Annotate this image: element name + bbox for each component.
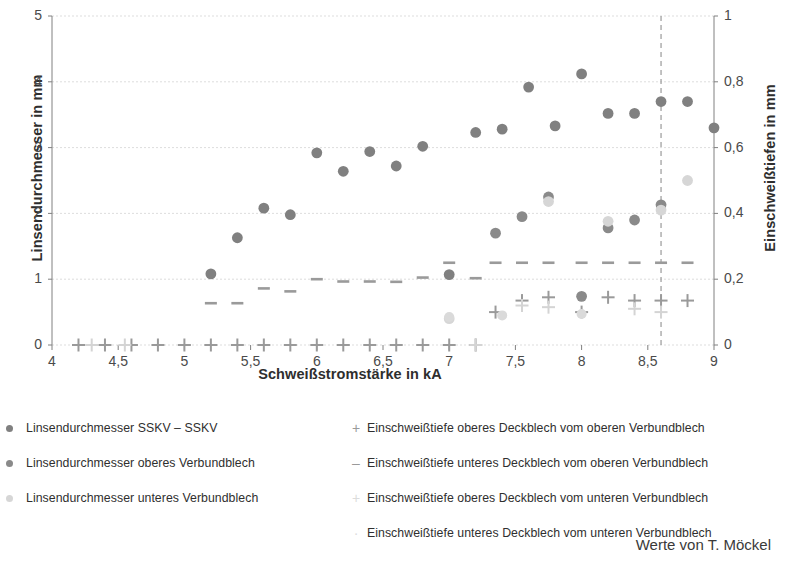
y-tick-label-left: 5 (12, 7, 42, 23)
x-tick-label: 9 (694, 353, 734, 369)
data-point-circle (603, 216, 614, 227)
data-point-circle (550, 120, 561, 131)
data-point-circle (391, 161, 402, 172)
legend-item[interactable]: Linsendurchmesser oberes Verbundblech (4, 453, 354, 473)
x-tick-label: 7 (429, 353, 469, 369)
data-point-dot-light (577, 309, 587, 319)
x-tick-label: 8 (562, 353, 602, 369)
data-point-circle (543, 196, 554, 207)
data-point-circle (311, 147, 322, 158)
data-point-circle (629, 108, 640, 119)
y-tick-label-left: 4 (12, 73, 42, 89)
x-tick-label: 8,5 (628, 353, 668, 369)
credit-text: Werte von T. Möckel (636, 536, 771, 553)
legend-item-label: Einschweißtiefe unteres Deckblech vom ob… (367, 456, 708, 470)
series-5 (85, 299, 667, 351)
x-tick-label: 6 (297, 353, 337, 369)
data-point-circle (656, 205, 667, 216)
y-tick-label-right: 0,8 (724, 73, 764, 89)
data-point-dot-light (497, 310, 507, 320)
x-tick-label: 7,5 (495, 353, 535, 369)
series-3 (72, 291, 694, 352)
plus-icon: · (345, 524, 367, 542)
plus-icon: + (345, 489, 367, 507)
y-tick-label-right: 0,6 (724, 139, 764, 155)
data-point-circle (258, 203, 269, 214)
data-point-circle (232, 232, 243, 243)
series-2 (444, 175, 693, 324)
dash-icon: – (345, 454, 367, 472)
y-tick-label-left: 3 (12, 139, 42, 155)
series-6 (444, 309, 586, 322)
legend-item-label: Einschweißtiefe oberes Deckblech vom unt… (367, 491, 708, 505)
data-point-circle (709, 122, 720, 133)
legend-circle-icon (4, 489, 26, 507)
series-4 (205, 263, 694, 303)
data-point-circle (682, 96, 693, 107)
x-tick-label: 4,5 (98, 353, 138, 369)
plus-icon: + (345, 419, 367, 437)
data-point-circle (444, 269, 455, 280)
figure-container: Linsendurchmesser in mm Einschweißtiefen… (0, 0, 789, 565)
y-tick-label-left: 2 (12, 204, 42, 220)
x-tick-label: 5 (164, 353, 204, 369)
circle-icon (6, 425, 13, 432)
y-tick-label-right: 0,4 (724, 204, 764, 220)
legend-plus-icon: + (345, 489, 367, 507)
circle-icon (6, 495, 13, 502)
series-0 (205, 69, 719, 280)
data-point-circle (629, 215, 640, 226)
legend-item-label: Linsendurchmesser SSKV – SSKV (26, 421, 217, 435)
data-point-circle (497, 124, 508, 135)
data-point-circle (364, 146, 375, 157)
y-tick-label-right: 0,2 (724, 270, 764, 286)
data-point-circle (656, 96, 667, 107)
chart-plot-area: Linsendurchmesser in mm Einschweißtiefen… (0, 0, 789, 400)
x-tick-label: 4 (32, 353, 72, 369)
data-point-circle (470, 127, 481, 138)
data-point-circle (603, 108, 614, 119)
data-point-circle (490, 228, 501, 239)
legend-circle-icon (4, 454, 26, 472)
legend-item[interactable]: +Einschweißtiefe oberes Deckblech vom ob… (345, 418, 789, 438)
circle-icon (6, 460, 13, 467)
data-point-circle (285, 209, 296, 220)
data-point-circle (205, 269, 216, 280)
data-point-circle (523, 82, 534, 93)
legend-item[interactable]: Linsendurchmesser SSKV – SSKV (4, 418, 354, 438)
y-tick-label-left: 0 (12, 336, 42, 352)
data-point-circle (576, 291, 587, 302)
legend-item[interactable]: –Einschweißtiefe unteres Deckblech vom o… (345, 453, 789, 473)
y-axis-right-title: Einschweißtiefen in mm (762, 38, 778, 298)
legend-item-label: Einschweißtiefe oberes Deckblech vom obe… (367, 421, 705, 435)
data-point-circle (576, 69, 587, 80)
y-tick-label-left: 1 (12, 270, 42, 286)
legend-dash-icon: – (345, 454, 367, 472)
x-tick-label: 6,5 (363, 353, 403, 369)
data-point-dot-light (444, 312, 454, 322)
legend-item[interactable]: +Einschweißtiefe oberes Deckblech vom un… (345, 488, 789, 508)
legend-item[interactable]: Linsendurchmesser unteres Verbundblech (4, 488, 354, 508)
legend-item-label: Linsendurchmesser oberes Verbundblech (26, 456, 255, 470)
y-tick-label-right: 0 (724, 336, 764, 352)
legend-item-label: Linsendurchmesser unteres Verbundblech (26, 491, 258, 505)
y-tick-label-right: 1 (724, 7, 764, 23)
data-point-circle (338, 166, 349, 177)
series-1 (490, 192, 666, 302)
data-point-circle (682, 175, 693, 186)
x-tick-label: 5,5 (231, 353, 271, 369)
legend-plus-icon: · (345, 524, 367, 542)
legend-circle-icon (4, 419, 26, 437)
data-point-circle (517, 211, 528, 222)
data-point-circle (417, 141, 428, 152)
scatter-plot-svg (0, 0, 789, 400)
legend-plus-icon: + (345, 419, 367, 437)
